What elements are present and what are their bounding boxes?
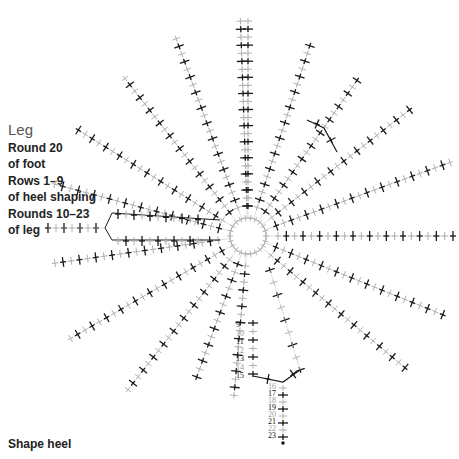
svg-text:23: 23 — [268, 431, 276, 440]
heel-shaping — [248, 267, 305, 445]
svg-text:15: 15 — [236, 371, 244, 380]
foundation-ring — [227, 215, 269, 257]
crochet-chart: 91011121314151617181920212223 — [0, 0, 459, 459]
stitch-spokes — [45, 18, 456, 398]
shape-heel-label: Shape heel — [8, 437, 71, 451]
